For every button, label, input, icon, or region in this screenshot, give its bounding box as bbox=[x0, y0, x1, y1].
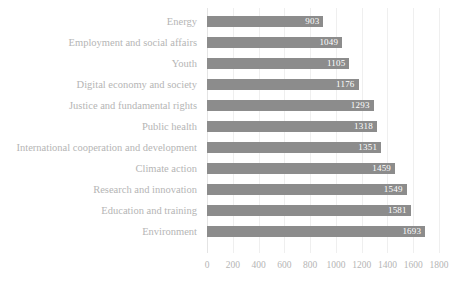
bar-row: 1293 bbox=[207, 95, 439, 116]
category-label: Employment and social affairs bbox=[0, 32, 202, 53]
bar[interactable] bbox=[207, 100, 374, 111]
bar-value-label: 1293 bbox=[351, 99, 370, 111]
bar-rows: 9031049110511761293131813511459154915811… bbox=[207, 8, 439, 253]
category-label: Public health bbox=[0, 116, 202, 137]
x-tick-label: 1400 bbox=[378, 258, 397, 272]
x-tick-label: 200 bbox=[226, 258, 240, 272]
x-tick-label: 0 bbox=[205, 258, 210, 272]
bar-value-label: 1693 bbox=[402, 225, 421, 237]
bar-row: 1693 bbox=[207, 221, 439, 242]
bar-value-label: 1049 bbox=[319, 36, 338, 48]
category-label: Research and innovation bbox=[0, 179, 202, 200]
category-label: International cooperation and developmen… bbox=[0, 137, 202, 158]
bar-value-label: 1581 bbox=[388, 204, 407, 216]
bar[interactable] bbox=[207, 226, 425, 237]
bar-row: 1176 bbox=[207, 74, 439, 95]
bar[interactable] bbox=[207, 184, 407, 195]
bar[interactable] bbox=[207, 121, 377, 132]
plot-area: 9031049110511761293131813511459154915811… bbox=[207, 8, 439, 253]
category-label: Environment bbox=[0, 221, 202, 242]
gridline bbox=[439, 8, 440, 253]
bar-row: 1105 bbox=[207, 53, 439, 74]
bar-row: 1549 bbox=[207, 179, 439, 200]
category-label: Justice and fundamental rights bbox=[0, 95, 202, 116]
bar-row: 1351 bbox=[207, 137, 439, 158]
x-tick-label: 1600 bbox=[404, 258, 423, 272]
category-label: Youth bbox=[0, 53, 202, 74]
bar-row: 1318 bbox=[207, 116, 439, 137]
x-tick-label: 600 bbox=[277, 258, 291, 272]
bar-value-label: 1351 bbox=[358, 141, 377, 153]
category-label: Climate action bbox=[0, 158, 202, 179]
category-label: Education and training bbox=[0, 200, 202, 221]
x-tick-label: 1200 bbox=[352, 258, 371, 272]
bar-row: 1581 bbox=[207, 200, 439, 221]
category-label: Digital economy and society bbox=[0, 74, 202, 95]
bar[interactable] bbox=[207, 163, 395, 174]
bar-row: 1459 bbox=[207, 158, 439, 179]
bar-value-label: 903 bbox=[305, 15, 319, 27]
x-tick-label: 400 bbox=[251, 258, 265, 272]
category-axis-labels: EnergyEmployment and social affairsYouth… bbox=[0, 8, 202, 253]
bar-chart: EnergyEmployment and social affairsYouth… bbox=[0, 0, 462, 285]
x-tick-label: 800 bbox=[303, 258, 317, 272]
bar[interactable] bbox=[207, 142, 381, 153]
bar-row: 1049 bbox=[207, 32, 439, 53]
bar-value-label: 1176 bbox=[336, 78, 354, 90]
bar-value-label: 1318 bbox=[354, 120, 373, 132]
bar-row: 903 bbox=[207, 11, 439, 32]
bar-value-label: 1549 bbox=[384, 183, 403, 195]
category-label: Energy bbox=[0, 11, 202, 32]
bar[interactable] bbox=[207, 205, 411, 216]
bar-value-label: 1459 bbox=[372, 162, 391, 174]
value-axis-tick-labels: 020040060080010001200140016001800 bbox=[207, 258, 439, 276]
x-tick-label: 1000 bbox=[326, 258, 345, 272]
bar-value-label: 1105 bbox=[327, 57, 345, 69]
x-tick-label: 1800 bbox=[430, 258, 449, 272]
